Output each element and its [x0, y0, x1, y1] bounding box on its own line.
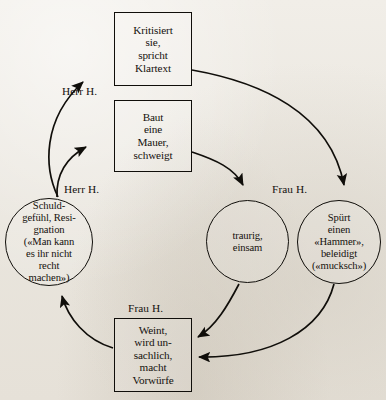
- node-mauer: Baut eine Mauer, schweigt: [114, 100, 192, 172]
- arrow-kritisiert-to-hammer: [192, 70, 344, 185]
- actor-label-frau-h-right: Frau H.: [272, 184, 307, 195]
- arrow-traurig-to-weint: [198, 284, 239, 337]
- node-traurig-text: traurig, einsam: [230, 230, 264, 254]
- actor-label-frau-h-bottom: Frau H.: [128, 303, 163, 314]
- node-kritisiert-text: Kritisiert sie, spricht Klartext: [131, 24, 174, 74]
- node-hammer: Spürt einen «Hammer», beleidigt («mucksc…: [297, 200, 381, 284]
- node-weint-text: Weint, wird un- sachlich, macht Vorwürfe: [130, 324, 175, 387]
- actor-label-herr-h-left: Herr H.: [64, 184, 99, 195]
- diagram-page: Kritisiert sie, spricht Klartext Baut ei…: [0, 0, 386, 400]
- arrow-weint-to-schuldgefuehl: [62, 296, 113, 348]
- node-kritisiert: Kritisiert sie, spricht Klartext: [114, 12, 192, 86]
- actor-label-herr-h-top-text: Herr H.: [62, 85, 97, 97]
- node-traurig: traurig, einsam: [206, 200, 289, 283]
- arrow-mauer-to-traurig: [192, 152, 243, 185]
- node-schuldgefuehl-text: Schuld- gefühl, Resi- gnation («Man kann…: [20, 200, 77, 283]
- actor-label-frau-h-bottom-text: Frau H.: [128, 302, 163, 314]
- arrow-hammer-to-weint: [199, 284, 334, 357]
- node-schuldgefuehl: Schuld- gefühl, Resi- gnation («Man kann…: [5, 198, 93, 286]
- node-weint: Weint, wird un- sachlich, macht Vorwürfe: [114, 318, 192, 392]
- node-hammer-text: Spürt einen «Hammer», beleidigt («mucksc…: [310, 212, 368, 271]
- actor-label-herr-h-top: Herr H.: [62, 86, 97, 97]
- actor-label-frau-h-right-text: Frau H.: [272, 183, 307, 195]
- node-mauer-text: Baut eine Mauer, schweigt: [132, 111, 175, 161]
- actor-label-herr-h-left-text: Herr H.: [64, 183, 99, 195]
- arrow-schuldgefuehl-to-kritisiert: [49, 82, 83, 197]
